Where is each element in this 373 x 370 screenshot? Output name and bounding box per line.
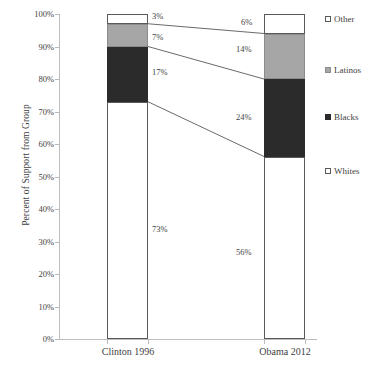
data-label-clinton-whites: 73% <box>152 224 168 234</box>
y-tick-60: 60% <box>20 139 54 149</box>
bar-segment-obama-whites[interactable] <box>264 157 305 339</box>
y-tick-50: 50% <box>20 172 54 182</box>
y-tick-90: 90% <box>20 42 54 52</box>
legend-swatch-whites-icon <box>325 168 331 174</box>
legend-swatch-other-icon <box>325 16 331 22</box>
x-axis-label-clinton-1996: Clinton 1996 <box>102 346 155 357</box>
legend-swatch-blacks-icon <box>325 114 331 120</box>
y-tick-40: 40% <box>20 204 54 214</box>
chart-legend: Other Latinos Blacks Whites <box>325 0 373 370</box>
bar-segment-clinton-whites[interactable] <box>107 102 148 339</box>
data-label-obama-blacks: 24% <box>236 112 252 122</box>
x-tickmark-clinton-right <box>148 339 149 344</box>
bar-column-obama-2012[interactable] <box>264 14 305 339</box>
y-axis-line <box>59 14 60 339</box>
legend-item-whites[interactable]: Whites <box>325 166 360 176</box>
y-tick-20: 20% <box>20 269 54 279</box>
bar-segment-clinton-blacks[interactable] <box>107 47 148 102</box>
data-label-obama-whites: 56% <box>236 247 252 257</box>
x-axis-label-obama-2012: Obama 2012 <box>259 346 310 357</box>
legend-label-other: Other <box>334 14 355 24</box>
series-connector-lines <box>0 0 373 370</box>
x-tickmark-clinton-left <box>107 339 108 344</box>
legend-label-latinos: Latinos <box>334 65 361 75</box>
bar-segment-clinton-latinos[interactable] <box>107 24 148 47</box>
y-axis-tick-labels: 100% 90% 80% 70% 60% 50% 40% 30% 20% 10%… <box>18 0 54 370</box>
x-tickmark-obama-left <box>264 339 265 344</box>
legend-label-whites: Whites <box>334 166 360 176</box>
bar-segment-obama-latinos[interactable] <box>264 34 305 80</box>
bar-segment-clinton-other[interactable] <box>107 14 148 24</box>
data-label-obama-other: 6% <box>241 17 252 27</box>
data-label-obama-latinos: 14% <box>236 44 252 54</box>
y-tick-0: 0% <box>20 334 54 344</box>
y-tick-80: 80% <box>20 74 54 84</box>
y-tick-30: 30% <box>20 237 54 247</box>
y-tick-10: 10% <box>20 302 54 312</box>
y-tick-70: 70% <box>20 107 54 117</box>
data-label-clinton-other: 3% <box>152 11 163 21</box>
legend-label-blacks: Blacks <box>334 112 359 122</box>
legend-item-latinos[interactable]: Latinos <box>325 65 361 75</box>
legend-item-other[interactable]: Other <box>325 14 355 24</box>
legend-swatch-latinos-icon <box>325 67 331 73</box>
x-tickmark-obama-right <box>305 339 306 344</box>
bar-segment-obama-blacks[interactable] <box>264 79 305 157</box>
bar-segment-obama-other[interactable] <box>264 14 305 34</box>
y-tick-100: 100% <box>20 9 54 19</box>
bar-column-clinton-1996[interactable] <box>107 14 148 339</box>
data-label-clinton-blacks: 17% <box>152 67 168 77</box>
legend-item-blacks[interactable]: Blacks <box>325 112 359 122</box>
data-label-clinton-latinos: 7% <box>152 32 163 42</box>
x-axis-line <box>59 339 317 340</box>
stacked-bar-chart: Percent of Support from Group 100% 90% 8… <box>0 0 373 370</box>
